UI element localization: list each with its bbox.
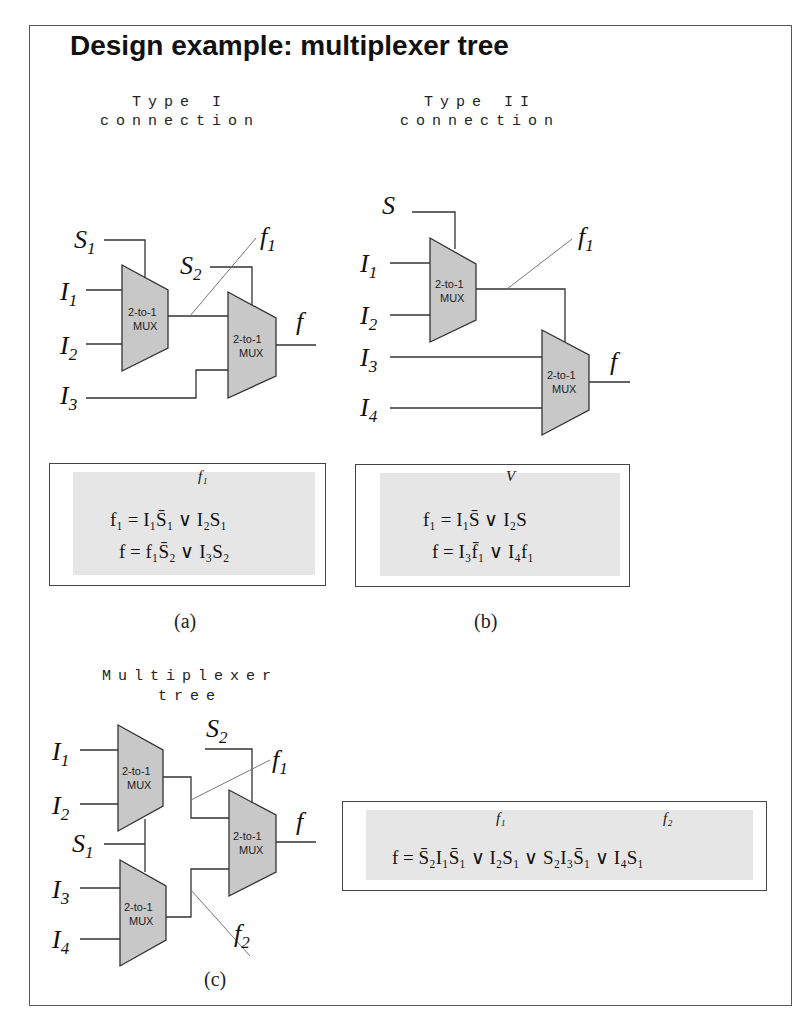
- tree-equation-line1: f = S̄₂I₁S̄₁ ∨ I₂S₁ ∨ S₂I₃S̄₁ ∨ I₄S₁: [392, 846, 644, 869]
- tree-mux2-label1: 2-to-1: [124, 901, 153, 913]
- tree-equation-shade: [366, 810, 753, 880]
- type2-equation-line1: f₁ = I₁S̄ ∨ I₂S: [423, 508, 527, 531]
- tree-label-f1: f1: [272, 745, 288, 778]
- tree-label-i2: I2: [51, 791, 70, 824]
- tree-label-i4: I4: [51, 925, 70, 958]
- caption-b: (b): [474, 610, 497, 633]
- type1-label-i2: I2: [59, 331, 78, 364]
- type2-mux2-label1: 2-to-1: [547, 369, 576, 381]
- caption-a: (a): [174, 610, 196, 633]
- tree-mux3-label2: MUX: [239, 844, 264, 856]
- tree-label-f2: f2: [234, 919, 250, 952]
- type2-mux1-label2: MUX: [440, 292, 465, 304]
- type2-label-i3: I3: [359, 343, 377, 376]
- type1-mux2-label1: 2-to-1: [233, 333, 262, 345]
- type2-label-i4: I4: [359, 393, 378, 426]
- type1-mux1-label2: MUX: [133, 320, 158, 332]
- tree-brace1-label: f₁: [496, 810, 505, 827]
- tree-mux2-label2: MUX: [129, 915, 154, 927]
- type2-label-f1: f1: [578, 222, 594, 255]
- tree-label-i3: I3: [51, 875, 69, 908]
- tree-label-f: f: [296, 807, 307, 836]
- tree-mux1-label2: MUX: [127, 779, 152, 791]
- type1-mux1: [122, 265, 168, 371]
- type1-label-f1: f1: [260, 222, 276, 255]
- tree-label-i1: I1: [51, 737, 69, 770]
- type1-equation-line1: f₁ = I₁S̄₁ ∨ I₂S₁: [110, 508, 227, 531]
- type2-label-f: f: [610, 347, 621, 376]
- type1-label-i1: I1: [59, 277, 77, 310]
- type1-brace-label: f₁: [198, 468, 207, 485]
- type2-mux1-label1: 2-to-1: [435, 278, 464, 290]
- type2-label-i1: I1: [359, 249, 377, 282]
- tree-mux2: [120, 860, 166, 966]
- tree-label-s2: S2: [206, 714, 228, 747]
- type1-mux2-label2: MUX: [239, 347, 264, 359]
- type1-equation-line2: f = f₁S̄₂ ∨ I₃S₂: [119, 540, 229, 563]
- type2-label-s: S: [382, 191, 395, 220]
- type1-mux1-label1: 2-to-1: [128, 306, 157, 318]
- type1-label-s2: S2: [180, 251, 202, 284]
- type2-brace-label: V: [506, 468, 515, 485]
- tree-mux1-label1: 2-to-1: [122, 765, 151, 777]
- tree-mux1: [118, 725, 163, 831]
- type1-label-f: f: [296, 307, 307, 336]
- type1-label-s1: S1: [74, 225, 96, 258]
- type2-label-i2: I2: [359, 301, 378, 334]
- type2-mux2-label2: MUX: [552, 383, 577, 395]
- tree-mux3-label1: 2-to-1: [233, 830, 262, 842]
- type1-label-i3: I3: [59, 381, 77, 414]
- tree-brace2-label: f₂: [663, 810, 672, 827]
- type1-mux2: [228, 292, 276, 398]
- type2-mux1: [430, 238, 476, 342]
- type1-diagram: 2-to-1 MUX 2-to-1 MUX: [86, 238, 316, 398]
- tree-mux3: [229, 790, 276, 896]
- type2-equation-line2: f = I₃f̄₁ ∨ I₄f₁: [432, 540, 534, 563]
- caption-c: (c): [204, 968, 226, 991]
- type2-diagram: 2-to-1 MUX 2-to-1 MUX: [390, 212, 630, 435]
- tree-label-s1: S1: [72, 829, 94, 862]
